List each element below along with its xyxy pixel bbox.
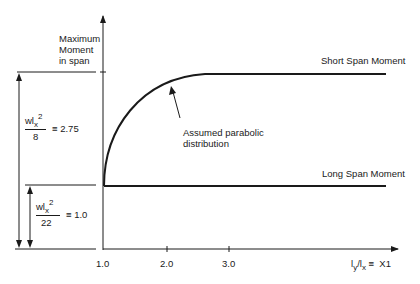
x-tick-label-3: 3.0 — [222, 258, 235, 269]
short-span-label: Short Span Moment — [321, 55, 406, 66]
long-span-label: Long Span Moment — [322, 168, 405, 179]
annotation-label: Assumed parabolic distribution — [183, 127, 264, 149]
annotation-arrow — [173, 92, 180, 118]
x-tick-label-1: 1.0 — [96, 258, 109, 269]
y-axis-label: Maximum Moment in span — [59, 33, 100, 66]
x-axis-label: ly/lx ≡ X1 — [351, 258, 391, 270]
x-tick-label-2: 2.0 — [160, 258, 173, 269]
